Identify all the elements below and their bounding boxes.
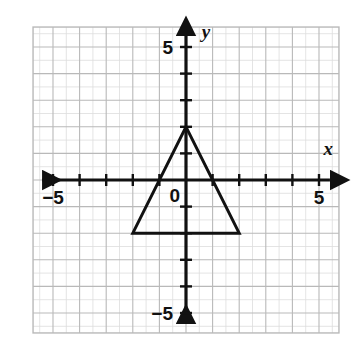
coordinate-plane-svg: −555−50xy [0,0,360,350]
coordinate-plane-figure: −555−50xy [0,0,360,350]
y-axis-letter: y [200,21,211,42]
y-tick-label: 5 [162,37,173,58]
x-axis-letter: x [323,138,334,159]
x-tick-label: −5 [42,187,64,208]
x-tick-label: 5 [314,187,325,208]
origin-label: 0 [169,185,180,206]
y-tick-label: −5 [151,303,173,324]
